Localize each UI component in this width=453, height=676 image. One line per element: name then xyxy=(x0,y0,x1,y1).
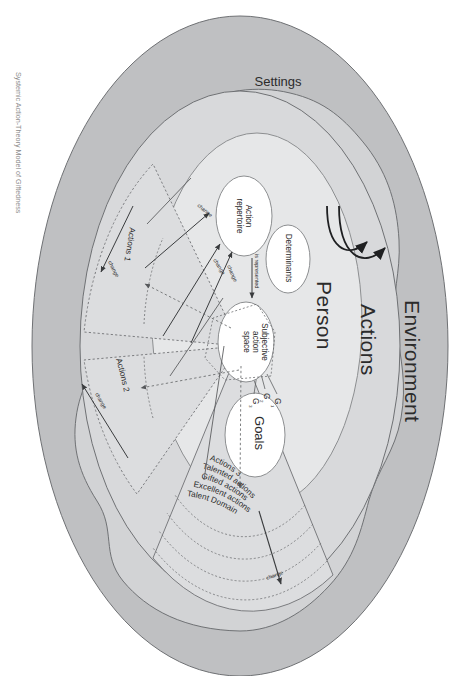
goal-node-g3: G xyxy=(251,398,260,404)
giftedness-model-diagram: Environment Social Persons Objects Setti… xyxy=(0,0,453,676)
person-label: Person xyxy=(313,281,336,350)
figure-caption: Systemic Action-Theory Model of Giftedne… xyxy=(14,72,23,214)
actions-label: Actions xyxy=(357,304,380,376)
environment-region-settings: Settings xyxy=(255,74,302,89)
is-represented-label: is represented xyxy=(254,254,260,288)
goal-node-g2: G xyxy=(262,393,271,399)
goal-node-g1: G xyxy=(273,398,282,404)
environment-label: Environment xyxy=(401,300,424,422)
goals-label: Goals xyxy=(252,416,267,450)
determinants-label: Determinants xyxy=(284,234,293,283)
figure-canvas: Environment Social Persons Objects Setti… xyxy=(0,0,453,676)
